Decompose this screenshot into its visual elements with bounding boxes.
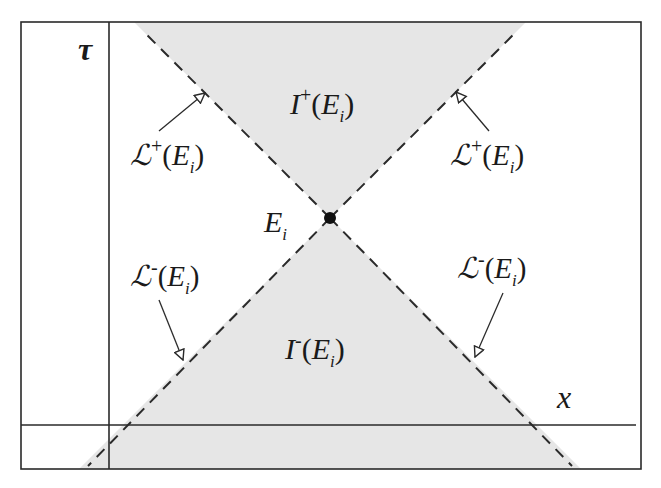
light-cone-diagram: τ x Ei I+(Ei) I-(Ei) ℒ+(Ei) ℒ+(Ei) ℒ-(Ei… (0, 0, 661, 488)
tau-axis-label: τ (78, 31, 94, 67)
arrow-future-right (456, 92, 489, 131)
future-left-boundary-label: ℒ+(Ei) (130, 135, 204, 177)
past-left-boundary-label: ℒ-(Ei) (130, 256, 199, 298)
x-axis-label: x (556, 379, 571, 415)
event-label-main: E (263, 205, 282, 238)
past-region-label: I-(Ei) (284, 329, 345, 371)
event-label: Ei (263, 205, 287, 244)
arrow-future-left (159, 93, 205, 131)
cone-regions (70, 12, 590, 478)
future-right-boundary-label: ℒ+(Ei) (450, 135, 524, 177)
past-right-boundary-label: ℒ-(Ei) (457, 248, 526, 290)
event-label-sub: i (282, 225, 287, 244)
arrow-past-right (475, 293, 503, 357)
event-point (324, 212, 336, 224)
arrow-past-left (159, 300, 183, 360)
future-region-label: I+(Ei) (289, 84, 354, 126)
